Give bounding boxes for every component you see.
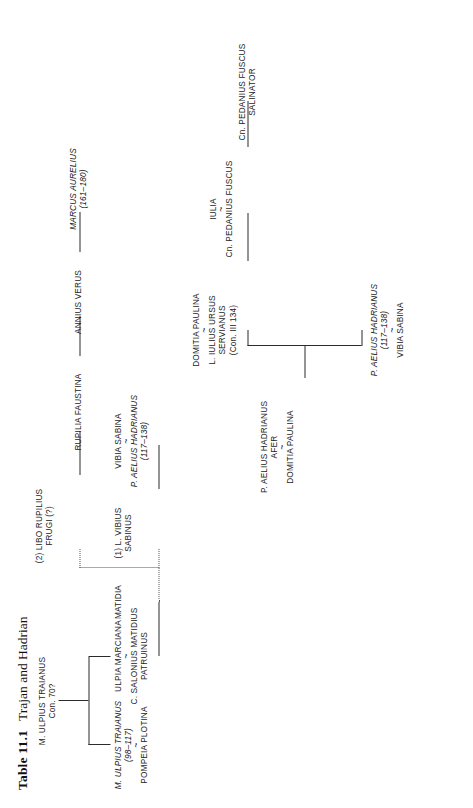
connector-to-hadrian xyxy=(361,330,362,346)
node-libo-rupilius-frugi: (2) LIBO RUPILIUS FRUGI (?) xyxy=(33,472,53,580)
node-matidia: MATIDIA xyxy=(112,571,122,633)
marriage-tilde-iulia: ~ xyxy=(217,150,223,268)
node-trajan-father: M. ULPIUS TRAIANUS Con. 70? xyxy=(36,636,56,766)
vibia-spouse-dates: (117–138) xyxy=(138,377,148,505)
marriage-tilde-vibia: ~ xyxy=(122,377,128,505)
afer-name-line1: P. AELIUS HADRIANUS xyxy=(258,379,268,515)
afer-spouse: DOMITIA PAULINA xyxy=(284,379,294,515)
iulia-spouse: Cn. PEDANIUS FUSCUS xyxy=(223,150,233,268)
marriage-tilde-hadrian: ~ xyxy=(388,262,394,398)
node-hadrian: P. AELIUS HADRIANUS (117–138) ~ VIBIA SA… xyxy=(368,262,405,398)
vibia-spouse-name: P. AELIUS HADRIANUS xyxy=(128,377,138,505)
marriage-tilde-marciana: ~ xyxy=(122,592,128,720)
hadrian-name: P. AELIUS HADRIANUS xyxy=(368,262,378,398)
table-number: Table 11.1 xyxy=(14,730,29,790)
connector-sibling-left-drop xyxy=(88,744,110,745)
node-rupilia-faustina: RUPILIA FAUSTINA xyxy=(72,360,82,464)
node-iulia: IULIA ~ Cn. PEDANIUS FUSCUS xyxy=(207,150,233,268)
domitia-spouse-line1: L. IULIUS URSUS xyxy=(206,262,216,398)
marriage-tilde-afer: ~ xyxy=(278,379,284,515)
connector-to-domitia-paulina xyxy=(247,330,248,346)
node-marcus-aurelius: MARCUS AURELIUS (161–180) xyxy=(67,130,87,248)
connector-sibling-right-drop xyxy=(88,656,110,657)
trajan-father-office: Con. 70? xyxy=(46,636,56,766)
connector-matidia-dotted-to-libo xyxy=(79,549,80,568)
libo-name-line2: FRUGI (?) xyxy=(43,472,53,580)
node-pedanius-fuscus-salinator: Cn. PEDANIUS FUSCUS SALINATOR xyxy=(236,24,256,160)
connector-sabinus-to-vibia-sabina xyxy=(158,445,159,489)
matidia-name: MATIDIA xyxy=(112,571,122,633)
genealogy-table: Table 11.1Trajan and Hadrian M. ULPIUS T… xyxy=(0,0,473,808)
rotated-page-stage: Table 11.1Trajan and Hadrian M. ULPIUS T… xyxy=(0,0,473,808)
node-domitia-paulina: DOMITIA PAULINA ~ L. IULIUS URSUS SERVIA… xyxy=(190,262,237,398)
hadrian-spouse: VIBIA SABINA xyxy=(394,262,404,398)
marriage-tilde-domitia: ~ xyxy=(200,262,206,398)
node-vibia-sabina: VIBIA SABINA ~ P. AELIUS HADRIANUS (117–… xyxy=(112,377,149,505)
node-annius-verus: ANNIUS VERUS xyxy=(72,256,82,348)
marcus-aurelius-name: MARCUS AURELIUS xyxy=(67,130,77,248)
connector-matidia-dotted-stub xyxy=(158,568,159,602)
salinator-line1: Cn. PEDANIUS FUSCUS xyxy=(236,24,246,160)
rupilia-name: RUPILIA FAUSTINA xyxy=(72,360,82,464)
trajan-father-name: M. ULPIUS TRAIANUS xyxy=(36,636,46,766)
table-title: Table 11.1Trajan and Hadrian xyxy=(14,616,30,790)
connector-trajan-father-drop xyxy=(58,700,88,701)
connector-sibling-bar-trajan xyxy=(88,657,89,745)
node-hadrianus-afer: P. AELIUS HADRIANUS AFER ~ DOMITIA PAULI… xyxy=(258,379,295,515)
connector-matidia-dotted-to-sabinus xyxy=(158,549,159,568)
connector-afer-to-children xyxy=(304,346,305,378)
domitia-spouse-line2: SERVIANUS xyxy=(216,262,226,398)
libo-name-line1: (2) LIBO RUPILIUS xyxy=(33,472,43,580)
domitia-spouse-line3: (Con. III 134) xyxy=(227,262,237,398)
annius-verus-name: ANNIUS VERUS xyxy=(72,256,82,348)
connector-marciana-to-matidia xyxy=(158,602,159,656)
salinator-line2: SALINATOR xyxy=(246,24,256,160)
marciana-spouse-line1: C. SALONIUS MATIDIUS xyxy=(128,592,138,720)
table-caption: Trajan and Hadrian xyxy=(14,616,29,720)
connector-afer-children-bar xyxy=(247,345,361,346)
marcus-aurelius-dates: (161–180) xyxy=(77,130,87,248)
connector-domitia-to-iulia xyxy=(247,213,248,261)
marciana-spouse-line2: PATRUINUS xyxy=(138,592,148,720)
